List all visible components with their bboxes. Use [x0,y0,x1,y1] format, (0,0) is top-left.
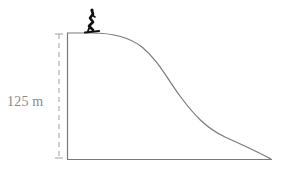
hill-profile-graphic [0,0,282,170]
height-dimension-line [55,34,63,158]
hill-slope-curve [67,33,271,159]
skier-icon [85,8,99,32]
ski-hill-diagram: 125 m [0,0,282,170]
height-label: 125 m [7,94,43,110]
